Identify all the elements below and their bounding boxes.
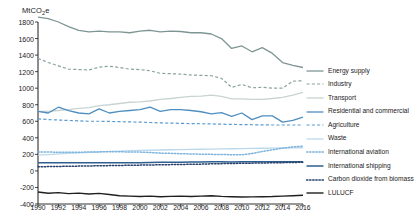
legend-swatch-carbon-dioxide-from-biomass	[306, 175, 324, 185]
x-axis-tick-1994: 1994	[71, 204, 86, 211]
legend-swatch-international-aviation	[306, 147, 324, 157]
x-axis-tick-2000: 2000	[132, 204, 147, 211]
series-line-agriculture	[38, 119, 303, 125]
legend-item-international-aviation[interactable]: International aviation	[306, 146, 416, 160]
y-axis-unit-subscript: 2	[42, 10, 45, 16]
y-axis-tick-1000: 1000	[18, 85, 34, 92]
plot-area	[38, 22, 303, 204]
legend-label-agriculture: Agriculture	[328, 122, 360, 129]
y-axis-tick-1200: 1200	[18, 68, 34, 75]
x-axis-tick-labels: 1990199219941996199820002002200420062008…	[38, 204, 303, 218]
y-axis-unit-suffix: e	[45, 6, 49, 15]
series-line-industry	[38, 58, 303, 88]
legend-swatch-agriculture	[306, 120, 324, 130]
legend-label-industry: Industry	[328, 81, 351, 88]
legend-label-carbon-dioxide-from-biomass: Carbon dioxide from biomass	[328, 176, 414, 183]
legend-swatch-residential-and-commercial	[306, 107, 324, 117]
legend-item-industry[interactable]: Industry	[306, 78, 416, 92]
y-axis-tick-neg200: -200	[20, 184, 34, 191]
y-axis-unit-prefix: MtCO	[22, 6, 42, 15]
series-line-transport	[38, 92, 303, 111]
y-axis-tick-200: 200	[22, 151, 34, 158]
legend-item-carbon-dioxide-from-biomass[interactable]: Carbon dioxide from biomass	[306, 173, 416, 187]
legend-swatch-transport	[306, 93, 324, 103]
y-axis-tick-400: 400	[22, 134, 34, 141]
x-axis-tick-2016: 2016	[295, 204, 310, 211]
y-axis-tick-600: 600	[22, 118, 34, 125]
x-axis-tick-2014: 2014	[275, 204, 290, 211]
x-axis-tick-2010: 2010	[234, 204, 249, 211]
legend-label-waste: Waste	[328, 135, 346, 142]
series-line-international-shipping	[38, 162, 303, 163]
legend-label-energy-supply: Energy supply	[328, 68, 370, 75]
x-axis-tick-2002: 2002	[153, 204, 168, 211]
legend-item-residential-and-commercial[interactable]: Residential and commercial	[306, 105, 416, 119]
series-line-energy-supply	[38, 17, 303, 67]
series-canvas	[38, 22, 303, 204]
x-axis-tick-2012: 2012	[255, 204, 270, 211]
legend-label-residential-and-commercial: Residential and commercial	[328, 108, 409, 115]
legend-swatch-lulucf	[306, 188, 324, 198]
y-axis-tick-labels: -400-20002004006008001000120014001600180…	[0, 22, 34, 204]
y-axis-tick-1400: 1400	[18, 52, 34, 59]
legend-label-international-aviation: International aviation	[328, 149, 389, 156]
series-line-lulucf	[38, 192, 303, 197]
emissions-line-chart: MtCO2e -400-2000200400600800100012001400…	[0, 0, 416, 222]
legend-item-lulucf[interactable]: LULUCF	[306, 186, 416, 200]
legend-label-international-shipping: International shipping	[328, 163, 391, 170]
y-axis-tick-800: 800	[22, 101, 34, 108]
x-axis-tick-1990: 1990	[30, 204, 45, 211]
legend-swatch-international-shipping	[306, 161, 324, 171]
legend-label-lulucf: LULUCF	[328, 190, 354, 197]
chart-legend: Energy supplyIndustryTransportResidentia…	[306, 64, 416, 200]
x-axis-tick-2004: 2004	[173, 204, 188, 211]
series-line-residential-and-commercial	[38, 107, 303, 122]
legend-item-agriculture[interactable]: Agriculture	[306, 118, 416, 132]
y-axis-tick-0: 0	[30, 167, 34, 174]
legend-swatch-industry	[306, 79, 324, 89]
legend-item-energy-supply[interactable]: Energy supply	[306, 64, 416, 78]
y-axis-tick-1600: 1600	[18, 35, 34, 42]
x-axis-tick-1992: 1992	[51, 204, 66, 211]
legend-item-waste[interactable]: Waste	[306, 132, 416, 146]
x-axis-tick-2008: 2008	[214, 204, 229, 211]
legend-swatch-energy-supply	[306, 66, 324, 76]
legend-item-transport[interactable]: Transport	[306, 91, 416, 105]
y-axis-tick-1800: 1800	[18, 19, 34, 26]
y-axis-unit-label: MtCO2e	[22, 6, 49, 15]
legend-label-transport: Transport	[328, 95, 356, 102]
x-axis-tick-1998: 1998	[112, 204, 127, 211]
x-axis-tick-1996: 1996	[92, 204, 107, 211]
legend-swatch-waste	[306, 134, 324, 144]
x-axis-tick-2006: 2006	[194, 204, 209, 211]
legend-item-international-shipping[interactable]: International shipping	[306, 159, 416, 173]
